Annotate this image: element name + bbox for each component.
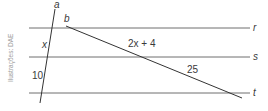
thales-diagram: r s t a b x 10 2x + 4 25 Ilustrações: DA… xyxy=(0,0,268,111)
label-b: b xyxy=(64,13,70,24)
label-s: s xyxy=(253,51,258,62)
segment-x: x xyxy=(41,39,48,50)
segment-25: 25 xyxy=(187,64,199,75)
label-a: a xyxy=(54,0,60,10)
segment-2x-plus-4: 2x + 4 xyxy=(128,38,156,49)
label-t: t xyxy=(253,87,257,98)
segment-10: 10 xyxy=(32,70,44,81)
transversal-a xyxy=(40,9,55,103)
transversal-b xyxy=(66,26,242,98)
illustration-credit: Ilustrações: DAE xyxy=(7,33,15,82)
label-r: r xyxy=(253,22,257,33)
